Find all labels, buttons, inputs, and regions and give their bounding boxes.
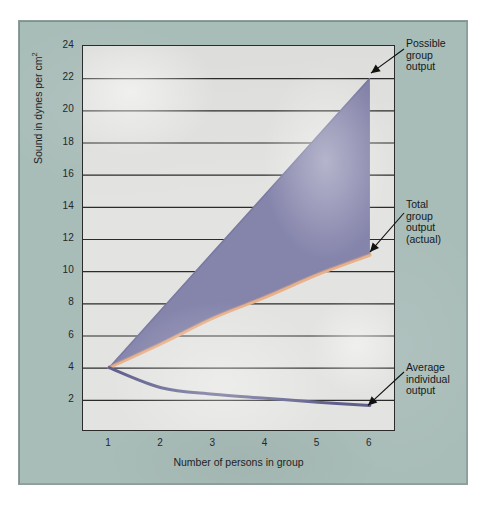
y-axis-tick-20: 20: [44, 103, 74, 114]
y-axis-tick-14: 14: [44, 200, 74, 211]
y-axis-tick-18: 18: [44, 136, 74, 147]
x-axis-title: Number of persons in group: [82, 456, 395, 468]
y-axis-tick-16: 16: [44, 168, 74, 179]
plot-graphics: [83, 46, 395, 431]
y-axis-tick-10: 10: [44, 264, 74, 275]
plot-area: [82, 45, 395, 431]
y-axis-title-base: Sound in dynes per cm: [32, 57, 44, 164]
annotation-average-individual-output: Average individual output: [406, 362, 450, 397]
y-axis-tick-6: 6: [44, 329, 74, 340]
x-axis-tick-6: 6: [354, 437, 384, 448]
y-axis-tick-22: 22: [44, 71, 74, 82]
y-axis-tick-24: 24: [44, 39, 74, 50]
annotation-total-group-output: Total group output (actual): [406, 199, 441, 245]
annotation-possible-group-output: Possible group output: [406, 38, 446, 73]
y-axis-tick-2: 2: [44, 393, 74, 404]
x-axis-tick-5: 5: [302, 437, 332, 448]
x-axis-tick-2: 2: [145, 437, 175, 448]
x-axis-tick-4: 4: [250, 437, 280, 448]
figure-root: 24681012141618202224 Sound in dynes per …: [0, 0, 487, 511]
y-axis-tick-12: 12: [44, 232, 74, 243]
y-axis-title-exponent: 2: [30, 52, 39, 56]
y-axis-tick-8: 8: [44, 296, 74, 307]
x-axis-tick-1: 1: [93, 437, 123, 448]
y-axis-title: Sound in dynes per cm2: [28, 148, 45, 164]
y-axis-tick-4: 4: [44, 361, 74, 372]
x-axis-tick-3: 3: [197, 437, 227, 448]
